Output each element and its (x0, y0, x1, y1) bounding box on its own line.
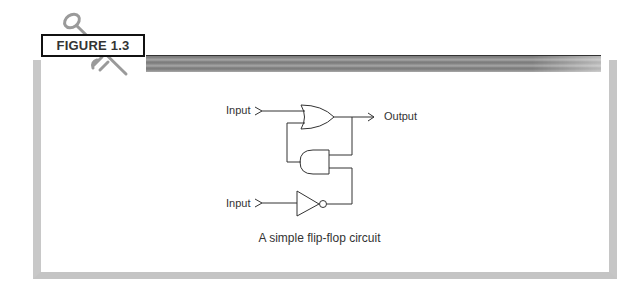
input-label-top: Input (226, 104, 250, 116)
input-chevron-icon (255, 107, 262, 115)
not-bubble (320, 201, 327, 208)
flip-flop-diagram (0, 0, 639, 297)
figure-caption: A simple flip-flop circuit (0, 231, 639, 245)
input-label-bottom: Input (226, 197, 250, 209)
input-chevron-icon (255, 199, 262, 207)
not-gate (297, 191, 319, 216)
or-gate (301, 105, 334, 129)
and-gate (300, 150, 329, 174)
output-label: Output (384, 110, 417, 122)
